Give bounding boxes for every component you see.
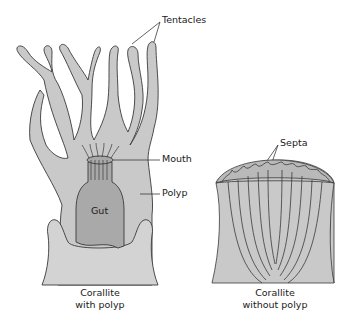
caption-left-line1: Corallite <box>60 287 140 299</box>
polyp-with-corallite <box>17 42 158 285</box>
caption-right-line1: Corallite <box>230 287 320 299</box>
corallite-without-polyp <box>212 160 334 283</box>
caption-left-line2: with polyp <box>60 299 140 311</box>
label-mouth: Mouth <box>162 154 192 165</box>
coral-diagram: Tentacles Mouth Polyp Gut Septa Corallit… <box>0 0 351 325</box>
label-polyp: Polyp <box>162 188 188 199</box>
label-septa: Septa <box>280 138 307 149</box>
caption-corallite-without-polyp: Corallite without polyp <box>230 287 320 312</box>
caption-corallite-with-polyp: Corallite with polyp <box>60 287 140 312</box>
caption-right-line2: without polyp <box>230 299 320 311</box>
label-gut: Gut <box>91 206 108 217</box>
label-tentacles: Tentacles <box>162 15 206 26</box>
